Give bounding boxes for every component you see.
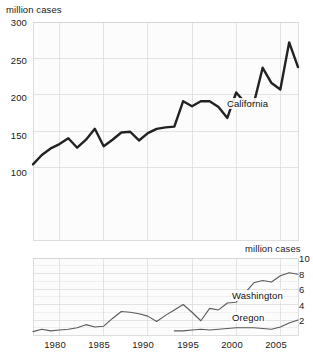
chart-figure: million cases 300 250 200 150 100 Califo… [0, 0, 313, 354]
series-label-oregon: Oregon [231, 312, 265, 323]
xtick-1995: 1995 [177, 339, 199, 350]
xtick-2005: 2005 [265, 339, 287, 350]
xtick-1990: 1990 [132, 339, 154, 350]
xtick-1985: 1985 [88, 339, 110, 350]
xtick-2000: 2000 [221, 339, 243, 350]
series-label-washington: Washington [231, 290, 284, 301]
xtick-1980: 1980 [44, 339, 66, 350]
